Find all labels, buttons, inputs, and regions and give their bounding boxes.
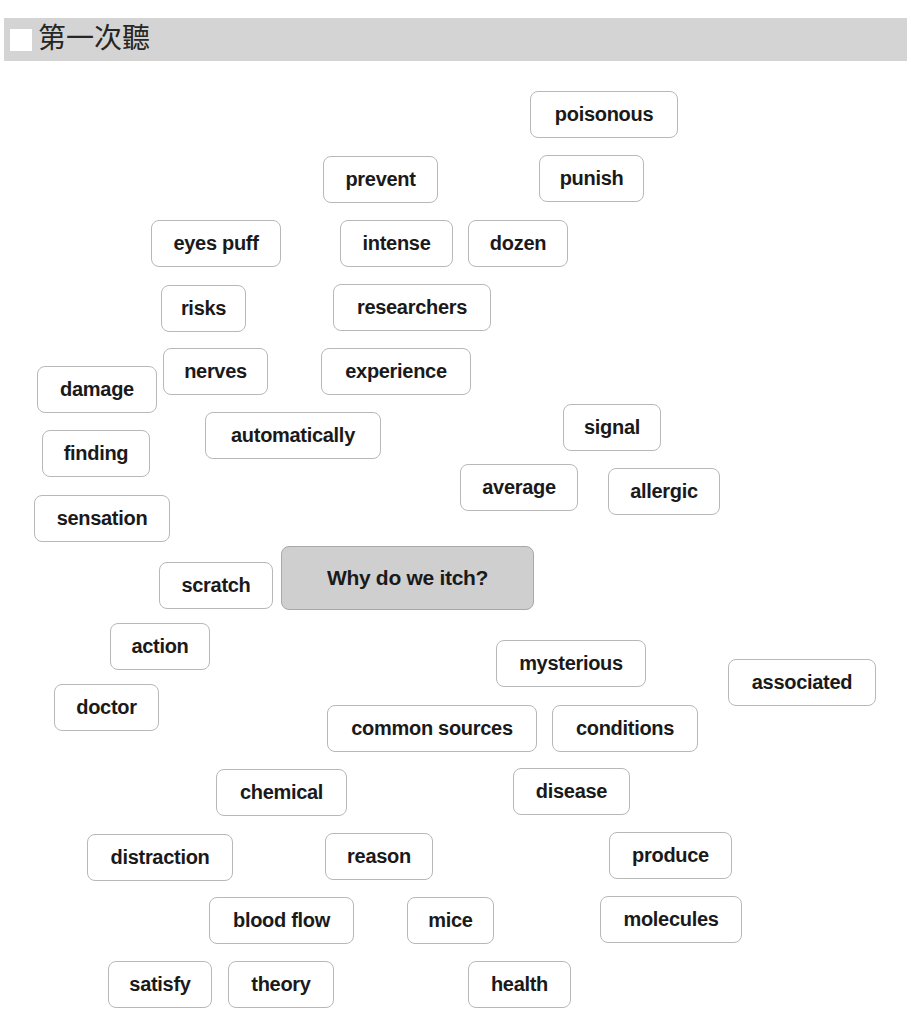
word-card-doctor[interactable]: doctor: [54, 684, 159, 731]
word-card-health[interactable]: health: [468, 961, 571, 1008]
word-card-associated[interactable]: associated: [728, 659, 876, 706]
word-card-conditions[interactable]: conditions: [552, 705, 698, 752]
center-topic: Why do we itch?: [281, 546, 534, 610]
word-card-satisfy[interactable]: satisfy: [108, 961, 212, 1008]
word-card-nerves[interactable]: nerves: [163, 348, 268, 395]
word-card-theory[interactable]: theory: [228, 961, 334, 1008]
word-card-eyes-puff[interactable]: eyes puff: [151, 220, 281, 267]
word-card-common-sources[interactable]: common sources: [327, 705, 537, 752]
word-card-poisonous[interactable]: poisonous: [530, 91, 678, 138]
word-card-dozen[interactable]: dozen: [468, 220, 568, 267]
word-card-chemical[interactable]: chemical: [216, 769, 347, 816]
word-card-mice[interactable]: mice: [407, 897, 494, 944]
word-card-intense[interactable]: intense: [340, 220, 453, 267]
word-map: Why do we itch? poisonouspreventpunishey…: [0, 0, 911, 1036]
word-card-disease[interactable]: disease: [513, 768, 630, 815]
word-card-molecules[interactable]: molecules: [600, 896, 742, 943]
word-card-automatically[interactable]: automatically: [205, 412, 381, 459]
word-card-sensation[interactable]: sensation: [34, 495, 170, 542]
word-card-action[interactable]: action: [110, 623, 210, 670]
word-card-scratch[interactable]: scratch: [159, 562, 273, 609]
word-card-allergic[interactable]: allergic: [608, 468, 720, 515]
word-card-prevent[interactable]: prevent: [323, 156, 438, 203]
word-card-blood-flow[interactable]: blood flow: [209, 897, 354, 944]
word-card-mysterious[interactable]: mysterious: [496, 640, 646, 687]
word-card-produce[interactable]: produce: [609, 832, 732, 879]
word-card-signal[interactable]: signal: [563, 404, 661, 451]
word-card-punish[interactable]: punish: [539, 155, 644, 202]
word-card-experience[interactable]: experience: [321, 348, 471, 395]
word-card-researchers[interactable]: researchers: [333, 284, 491, 331]
word-card-damage[interactable]: damage: [37, 366, 157, 413]
word-card-finding[interactable]: finding: [42, 430, 150, 477]
word-card-average[interactable]: average: [460, 464, 578, 511]
word-card-distraction[interactable]: distraction: [87, 834, 233, 881]
word-card-risks[interactable]: risks: [161, 285, 246, 332]
word-card-reason[interactable]: reason: [325, 833, 433, 880]
